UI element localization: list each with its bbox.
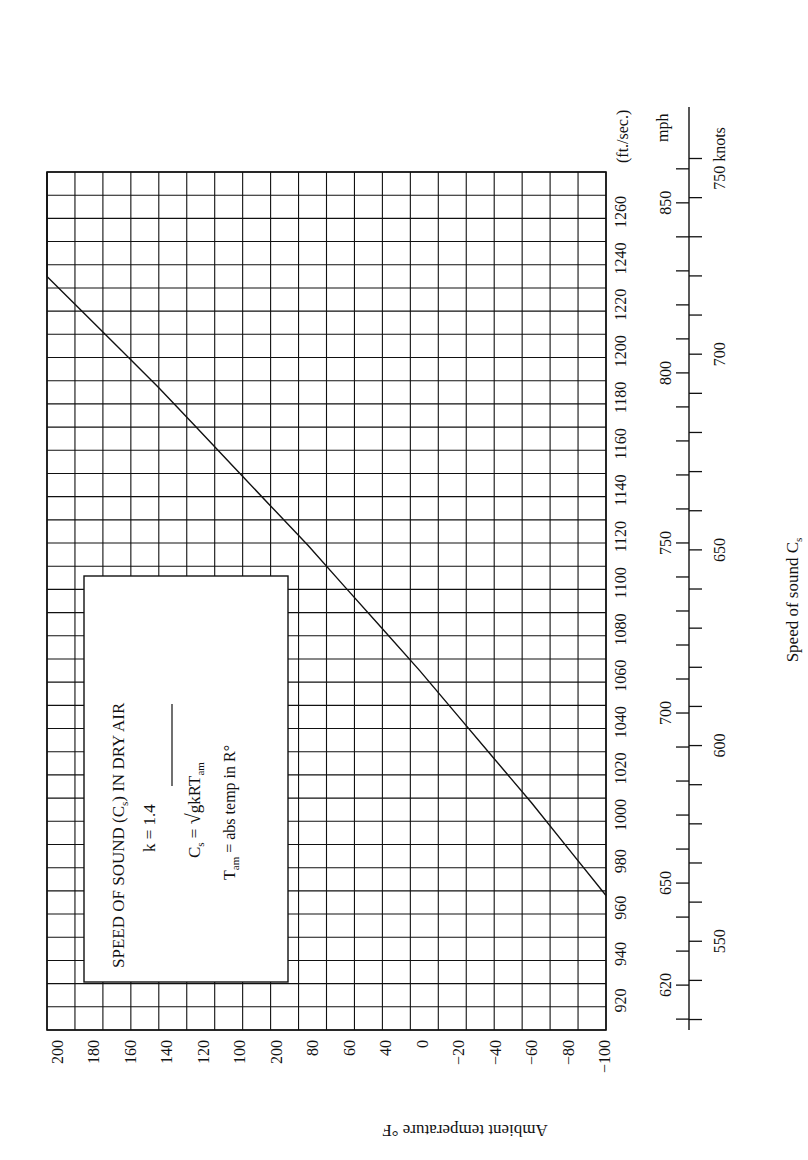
temperature-tick-label: 200 — [49, 1040, 66, 1064]
fps-tick-label: 1220 — [612, 289, 629, 321]
mph-tick-label: 850 — [657, 191, 674, 215]
legend-box: SPEED OF SOUND (Cs) IN DRY AIR k = 1.4 C… — [84, 576, 288, 982]
temperature-tick-label: 120 — [195, 1040, 212, 1064]
fps-tick-label: 1080 — [612, 613, 629, 645]
knots-tick-label: 700 — [711, 342, 728, 366]
temperature-tick-label: 60 — [341, 1040, 358, 1056]
temperature-tick-label: 140 — [158, 1040, 175, 1064]
temperature-tick-label: −60 — [523, 1040, 540, 1065]
fps-tick-label: 1040 — [612, 706, 629, 738]
fps-tick-label: 1060 — [612, 660, 629, 692]
fps-tick-label: 1180 — [612, 382, 629, 413]
knots-ticks: 550600650700750 knots — [689, 127, 728, 1019]
temperature-tick-label: 200 — [268, 1040, 285, 1064]
fps-unit-label: (ft./sec.) — [614, 110, 632, 163]
knots-tick-label: 650 — [711, 538, 728, 562]
knots-tick-label: 550 — [711, 929, 728, 953]
fps-tick-label: 980 — [612, 849, 629, 873]
fps-tick-labels: 9209409609801000102010401060108011001120… — [612, 196, 629, 1012]
temperature-tick-label: 180 — [85, 1040, 102, 1064]
fps-tick-label: 1020 — [612, 753, 629, 785]
temperature-tick-label: 160 — [122, 1040, 139, 1064]
fps-tick-label: 1160 — [612, 428, 629, 459]
mph-tick-label: 750 — [657, 531, 674, 555]
mph-tick-label: 700 — [657, 701, 674, 725]
temperature-tick-label: −40 — [487, 1040, 504, 1065]
fps-tick-label: 1260 — [612, 196, 629, 228]
fps-tick-label: 940 — [612, 942, 629, 966]
fps-tick-label: 1120 — [612, 521, 629, 552]
mph-tick-label: 650 — [657, 871, 674, 895]
knots-tick-label: 600 — [711, 734, 728, 758]
temperature-tick-label: 80 — [304, 1040, 321, 1056]
knots-tick-label: 750 knots — [711, 127, 728, 190]
temperature-tick-label: 100 — [231, 1040, 248, 1064]
fps-tick-label: 1100 — [612, 567, 629, 598]
temperature-tick-label: 0 — [414, 1040, 431, 1048]
y-axis-title: Speed of sound Cs — [783, 538, 804, 663]
mph-tick-label: 800 — [657, 361, 674, 385]
x-axis-title: Ambient temperature °F — [382, 1121, 547, 1140]
legend-title: SPEED OF SOUND (Cs) IN DRY AIR — [109, 702, 130, 968]
temperature-tick-label: 40 — [377, 1040, 394, 1056]
mph-unit-label: mph — [654, 114, 672, 142]
temperature-tick-label: −80 — [560, 1040, 577, 1065]
legend-k: k = 1.4 — [140, 804, 159, 852]
temperature-tick-labels: 2001801601401201002008060400−20−40−60−80… — [49, 1040, 613, 1073]
fps-tick-label: 1200 — [612, 335, 629, 367]
fps-tick-label: 1140 — [612, 475, 629, 506]
fps-tick-label: 920 — [612, 988, 629, 1012]
fps-tick-label: 1240 — [612, 242, 629, 274]
temperature-tick-label: −100 — [596, 1040, 613, 1073]
fps-tick-label: 1000 — [612, 799, 629, 831]
mph-ticks: 620650700750800850 — [657, 169, 689, 1019]
speed-of-sound-chart: SPEED OF SOUND (Cs) IN DRY AIR k = 1.4 C… — [0, 0, 808, 1160]
mph-tick-label: 620 — [657, 973, 674, 997]
fps-tick-label: 960 — [612, 896, 629, 920]
temperature-tick-label: −20 — [450, 1040, 467, 1065]
